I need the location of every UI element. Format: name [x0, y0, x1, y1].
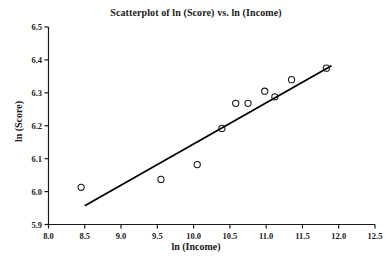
x-axis-tick-label: 10.5	[222, 231, 237, 241]
x-axis-tick-label: 12.5	[368, 231, 383, 241]
x-axis-tick-label: 11.0	[259, 231, 273, 241]
data-point-marker	[288, 77, 294, 83]
regression-line	[85, 66, 332, 206]
x-axis-title: ln (Income)	[0, 241, 392, 252]
data-point-marker	[262, 88, 268, 94]
x-axis-tick-label: 12.0	[331, 231, 346, 241]
y-axis-tick-label: 5.9	[8, 220, 42, 230]
data-point-marker	[158, 176, 164, 182]
x-axis-tick-label: 9.5	[152, 231, 163, 241]
y-axis-tick-label: 6.0	[8, 187, 42, 197]
regression-line-path	[85, 66, 332, 206]
x-axis-tick-label: 8.0	[43, 231, 54, 241]
x-axis-tick-label: 11.5	[295, 231, 309, 241]
plot-area	[0, 0, 392, 265]
scatterplot-figure: Scatterplot of ln (Score) vs. ln (Income…	[0, 0, 392, 265]
data-point-marker	[194, 161, 200, 167]
data-point-marker	[233, 100, 239, 106]
x-axis-tick-label: 10.0	[186, 231, 201, 241]
y-axis-tick-label: 6.5	[8, 22, 42, 32]
data-point-marker	[78, 184, 84, 190]
x-axis-tick-label: 8.5	[79, 231, 90, 241]
data-points	[78, 65, 329, 190]
axis-lines	[48, 27, 375, 225]
data-point-marker	[245, 100, 251, 106]
x-axis-ticks	[49, 225, 376, 229]
y-axis-title: ln (Score)	[13, 62, 24, 182]
x-axis-tick-label: 9.0	[116, 231, 127, 241]
